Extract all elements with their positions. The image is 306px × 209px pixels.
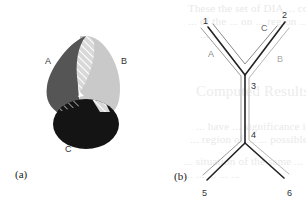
label-a: A <box>45 56 51 66</box>
panel-b-diagram <box>201 22 289 180</box>
panel-a-diagram: A B C (a) <box>15 36 127 181</box>
caption-a: (a) <box>15 168 28 181</box>
figure: A B C (a) 1 2 3 4 5 6 A C B (b) <box>0 0 306 209</box>
label-c: C <box>65 144 72 154</box>
path-label-b: B <box>277 54 283 64</box>
main-path-lower-right <box>245 143 284 178</box>
node-5: 5 <box>202 188 207 198</box>
path-label-c: C <box>261 23 268 33</box>
caption-b: (b) <box>174 170 187 183</box>
node-1: 1 <box>203 16 208 26</box>
label-b: B <box>121 56 127 66</box>
node-2: 2 <box>282 10 287 20</box>
node-3: 3 <box>251 81 256 91</box>
node-4: 4 <box>251 130 256 140</box>
path-label-a: A <box>208 49 214 59</box>
node-6: 6 <box>287 188 292 198</box>
main-path-lower-left <box>207 143 245 180</box>
